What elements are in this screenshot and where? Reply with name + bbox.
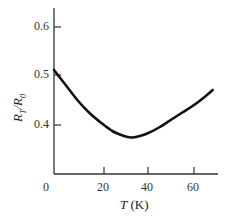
x-ticks xyxy=(104,167,194,174)
x-axis-label: T (K) xyxy=(120,197,149,213)
y-axis-label: RT/R0 xyxy=(4,78,34,138)
y-tick-label-0.4: 0.4 xyxy=(34,117,49,132)
y-tick-label-0.5: 0.5 xyxy=(34,67,49,82)
x-tick-label-40: 40 xyxy=(141,180,153,195)
x-tick-label-20: 20 xyxy=(97,180,109,195)
y-tick-label-0.6: 0.6 xyxy=(34,19,49,34)
x-tick-label-0: 0 xyxy=(43,180,49,195)
x-tick-label-60: 60 xyxy=(187,180,199,195)
data-curve xyxy=(54,70,213,138)
